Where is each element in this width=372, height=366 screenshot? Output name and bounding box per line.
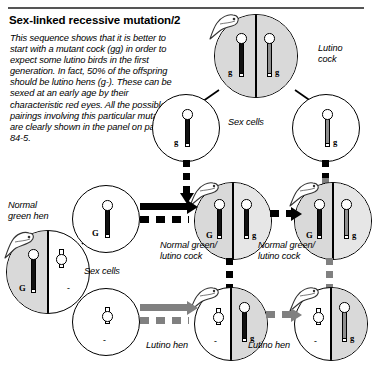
- centromere-knob: [239, 302, 250, 313]
- cell-sex-cell-hen-none: -: [72, 288, 140, 356]
- chromosome-single: [103, 200, 112, 238]
- centromere-knob: [56, 254, 67, 265]
- arrow-head: [187, 200, 198, 214]
- page-title: Sex-linked recessive mutation/2: [9, 14, 180, 26]
- allele-label-left: G: [306, 230, 313, 240]
- centromere-knob: [236, 33, 247, 44]
- allele-label-right: g: [275, 67, 279, 77]
- label-line-1: Normal green/: [258, 240, 338, 251]
- chromosome-left: [315, 199, 324, 239]
- label-lutino-cock: Lutino cock: [318, 43, 368, 64]
- chromosome-arm: [344, 208, 349, 236]
- chromosome-right: [265, 33, 274, 77]
- centromere-knob: [313, 312, 324, 323]
- centromere-knob: [264, 33, 275, 44]
- arrow-cock-left-to-cock-right: [270, 210, 302, 217]
- chromosome-arm: [244, 208, 249, 236]
- cell-half-right: [256, 15, 297, 97]
- chromosome-left: [29, 249, 38, 293]
- cell-divider: [230, 288, 231, 360]
- cell-half-right: [331, 288, 367, 360]
- chromosome-right-short: [57, 249, 66, 268]
- allele-label-left: -: [314, 336, 317, 346]
- chromosome-tip: [242, 338, 247, 342]
- allele-label: -: [103, 335, 106, 345]
- chromosome-left: [215, 199, 224, 239]
- centromere-knob: [341, 199, 352, 210]
- cell-sex-cell-cock-left: g: [152, 94, 220, 162]
- centromere-knob: [102, 200, 113, 211]
- label-line-2: cock: [318, 54, 368, 65]
- allele-label-left: G: [19, 283, 26, 293]
- allele-label-left: g: [228, 67, 232, 77]
- chromosome-single: [183, 109, 192, 147]
- centromere-knob: [102, 311, 113, 322]
- allele-label-right: g: [352, 230, 356, 240]
- allele-label: g: [333, 137, 337, 147]
- arrow-head: [291, 308, 302, 322]
- allele-label: g: [174, 137, 178, 147]
- header-rule: [8, 7, 364, 9]
- allele-label: G: [92, 228, 99, 238]
- arrow-shaft: [270, 210, 293, 217]
- cell-half-right: [333, 183, 371, 259]
- cell-divider: [330, 288, 331, 360]
- chromosome-tip: [239, 73, 244, 77]
- cell-divider: [47, 231, 48, 313]
- centromere-knob: [28, 249, 39, 260]
- chromosome-tip: [185, 143, 190, 147]
- allele-label-right: -: [67, 283, 70, 293]
- chromosome-right: [240, 302, 249, 342]
- label-sex-cells-left: Sex cells: [84, 266, 120, 277]
- allele-label-left: G: [206, 230, 213, 240]
- label-sex-cells-top: Sex cells: [228, 117, 264, 128]
- arrow-hen-sexcell-to-cock-dashed: [140, 216, 198, 223]
- chromosome-right: [242, 199, 251, 239]
- arrow-hen-sexcell-to-cock-solid: [140, 203, 198, 210]
- chromosome-single-short: [103, 307, 112, 324]
- chromosome-tip: [105, 234, 110, 238]
- chromosome-right: [340, 302, 349, 342]
- label-line-1: Normal green/: [160, 240, 240, 251]
- chromosome-arm: [105, 209, 110, 235]
- chromosome-arm: [325, 118, 330, 144]
- arrow-shaft: [140, 203, 189, 210]
- arrow-lutino-hen-left-to-right: [266, 311, 302, 318]
- chromosome-tip: [344, 235, 349, 239]
- chromosome-arm: [242, 311, 247, 339]
- centromere-knob: [182, 109, 193, 120]
- centromere-knob: [214, 199, 225, 210]
- allele-label-right: g: [252, 230, 256, 240]
- chromosome-right: [342, 199, 351, 239]
- arrow-hen-sexcell-to-lutino-hen-solid: [140, 304, 198, 311]
- allele-label-right: g: [350, 333, 354, 343]
- arrow-head: [187, 301, 198, 315]
- chromosome-tip: [267, 73, 272, 77]
- cell-divider: [255, 15, 256, 97]
- label-line-1: Lutino: [318, 43, 368, 54]
- arrow-shaft: [140, 216, 189, 223]
- centromere-knob: [339, 302, 350, 313]
- arrow-head: [291, 207, 302, 221]
- arrow-shaft: [140, 304, 189, 311]
- centromere-knob: [314, 199, 325, 210]
- chromosome-arm: [185, 118, 190, 144]
- chromosome-arm: [267, 42, 272, 74]
- chromosome-tip: [217, 235, 222, 239]
- diagram-page: Sex-linked recessive mutation/2 This seq…: [0, 0, 372, 366]
- chromosome-single: [323, 109, 332, 147]
- chromosome-arm: [239, 42, 244, 74]
- chromosome-tip: [244, 235, 249, 239]
- arrow-hen-sexcell-to-lutino-hen-dashed: [140, 317, 198, 324]
- chromosome-arm: [342, 311, 347, 339]
- cell-sex-cell-cock-right: g: [292, 94, 360, 162]
- arrow-shaft: [140, 317, 189, 324]
- label-lutino-hen-left: Lutino hen: [146, 340, 188, 351]
- chromosome-left: [237, 33, 246, 77]
- allele-label-left: -: [214, 336, 217, 346]
- centromere-knob: [241, 199, 252, 210]
- chromosome-tip: [317, 235, 322, 239]
- chromosome-tip: [342, 338, 347, 342]
- centromere-knob: [322, 109, 333, 120]
- centromere-knob: [213, 312, 224, 323]
